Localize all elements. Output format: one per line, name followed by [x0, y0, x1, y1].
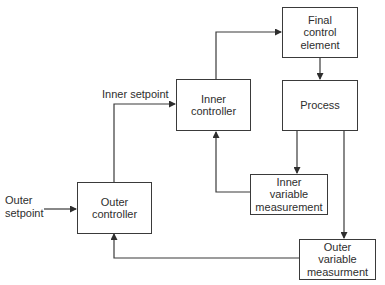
inner-feedback-arrow: [216, 132, 250, 192]
outer-feedback-arrow: [114, 234, 299, 258]
outer-setpoint-label: Outer setpoint: [5, 194, 44, 219]
inner-variable-measurement-block: Inner variable measurement: [250, 174, 328, 215]
final-control-element-block: Final control element: [282, 7, 358, 58]
cascade-control-diagram: Final control element Process Inner cont…: [0, 0, 385, 285]
inner-controller-block: Inner controller: [176, 79, 251, 131]
process-block: Process: [282, 80, 358, 131]
outer-variable-measurement-block: Outer variable measurment: [299, 239, 376, 280]
inner-setpoint-arrow: [114, 104, 175, 182]
inner-controller-output-arrow: [216, 32, 281, 79]
outer-controller-block: Outer controller: [77, 182, 152, 234]
inner-setpoint-label: Inner setpoint: [102, 88, 169, 101]
